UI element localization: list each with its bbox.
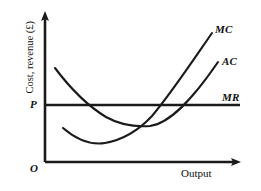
cost-revenue-diagram: MC AC MR P O Output Cost, revenue (£) — [0, 0, 261, 191]
x-axis — [45, 158, 241, 166]
y-axis — [41, 11, 49, 162]
mr-curve-label: MR — [222, 92, 240, 103]
mc-curve-label: MC — [215, 24, 233, 35]
origin-label: O — [30, 163, 38, 174]
y-axis-label: Cost, revenue (£) — [25, 7, 36, 107]
ac-curve-label: AC — [222, 56, 237, 67]
x-axis-label: Output — [181, 168, 212, 179]
ac-curve — [55, 62, 218, 126]
